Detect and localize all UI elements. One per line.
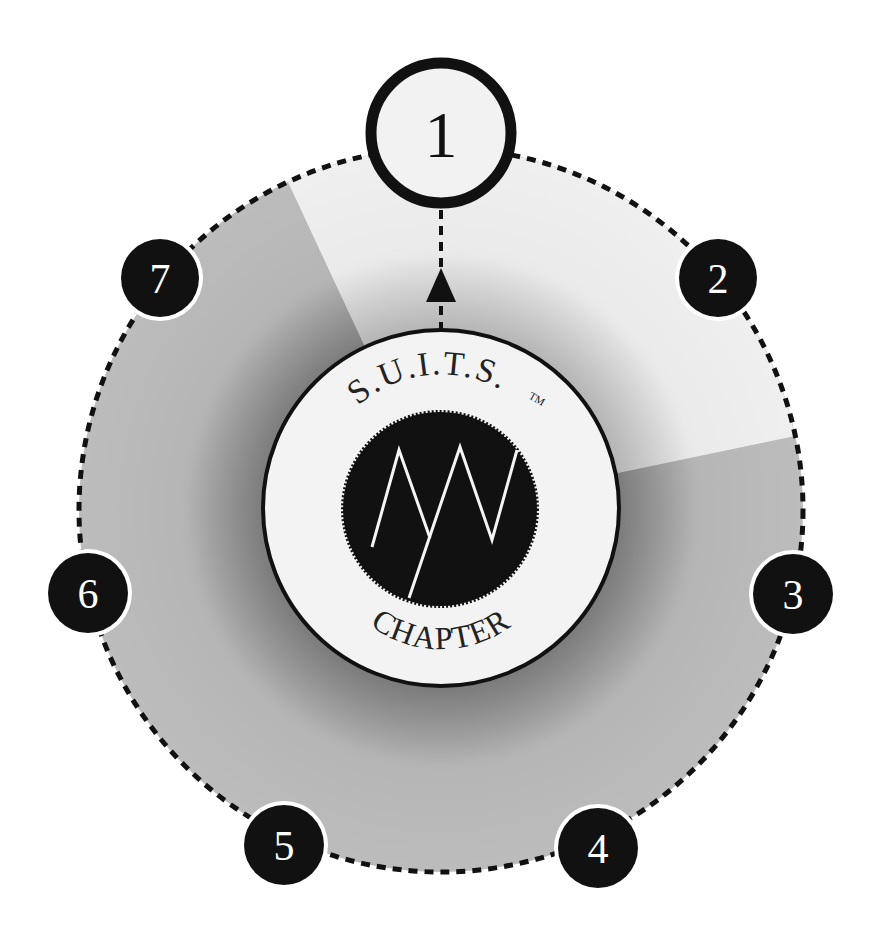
step-4-label: 4 xyxy=(588,826,609,872)
step-1-badge[interactable]: 1 xyxy=(371,63,511,203)
step-6-label: 6 xyxy=(78,571,99,617)
step-5-badge[interactable]: 5 xyxy=(240,801,328,889)
step-3-badge[interactable]: 3 xyxy=(749,550,837,638)
step-2-label: 2 xyxy=(708,256,729,302)
step-4-badge[interactable]: 4 xyxy=(554,804,642,892)
step-7-label: 7 xyxy=(150,256,171,302)
step-6-badge[interactable]: 6 xyxy=(44,549,132,637)
step-3-label: 3 xyxy=(783,572,804,618)
step-2-badge[interactable]: 2 xyxy=(675,235,761,321)
step-1-label: 1 xyxy=(425,98,458,171)
step-5-label: 5 xyxy=(274,823,295,869)
suits-chapter-cycle-diagram: S.U.I.T.S. TM CHAPTER 1 2 3 4 5 6 7 xyxy=(0,0,880,936)
step-7-badge[interactable]: 7 xyxy=(117,235,203,321)
